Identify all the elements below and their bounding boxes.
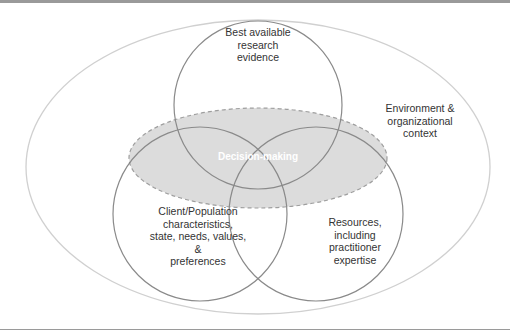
research-label: Best available research evidence xyxy=(198,26,318,64)
frame-bottom-border xyxy=(0,329,510,330)
decision-making-label: Decision-making xyxy=(198,151,318,162)
environment-label: Environment & organizational context xyxy=(365,102,475,140)
resources-label: Resources, including practitioner expert… xyxy=(305,216,405,266)
client-label: Client/Population characteristics, state… xyxy=(133,205,263,268)
